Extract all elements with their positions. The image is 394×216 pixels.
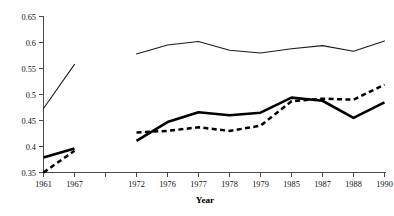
- y-tick-marks: [39, 17, 44, 173]
- x-tick-label-1967: 1967: [66, 180, 83, 189]
- x-tick-marks: [44, 173, 385, 178]
- y-tick-label: 0.55: [21, 65, 36, 74]
- x-tick-label-1988: 1988: [345, 180, 362, 189]
- chart-canvas: 0.65 0.6 0.55 0.5 0.45 0.4 0.35 1961: [0, 0, 394, 216]
- y-tick-label: 0.5: [26, 91, 36, 100]
- x-tick-label-1977: 1977: [190, 180, 207, 189]
- x-tick-label-1972: 1972: [128, 180, 145, 189]
- x-tick-label-1987: 1987: [314, 180, 331, 189]
- y-tick-label: 0.45: [21, 117, 36, 126]
- x-tick-label-1961: 1961: [35, 180, 52, 189]
- series-group: [44, 41, 385, 173]
- x-tick-label-1979: 1979: [252, 180, 269, 189]
- x-tick-label-1985: 1985: [283, 180, 300, 189]
- series-dashed-line: [44, 85, 385, 173]
- series-thick-line: [44, 98, 385, 158]
- line-chart: 0.65 0.6 0.55 0.5 0.45 0.4 0.35 1961: [0, 0, 394, 216]
- y-tick-label: 0.35: [21, 169, 36, 178]
- y-tick-label: 0.6: [26, 39, 36, 48]
- y-tick-label: 0.65: [21, 13, 36, 22]
- y-tick-labels: 0.65 0.6 0.55 0.5 0.45 0.4 0.35: [21, 13, 36, 178]
- x-tick-labels: 1961 1967 1972 1976 1977 1978 1979 1985 …: [35, 180, 393, 189]
- x-tick-label-1976: 1976: [159, 180, 176, 189]
- x-axis-title: Year: [196, 195, 214, 205]
- x-tick-label-1978: 1978: [221, 180, 238, 189]
- x-tick-label-1990: 1990: [376, 180, 393, 189]
- y-tick-label: 0.4: [26, 143, 37, 152]
